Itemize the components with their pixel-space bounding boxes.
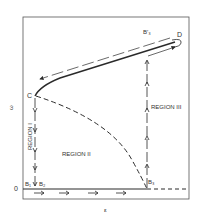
region2-label: REGION II [62,151,91,157]
x-axis-label: ε [104,207,107,213]
y-axis-label: ω [8,105,14,110]
region3-arrows [145,58,149,188]
point-B3prime-label: B′₃ [143,29,151,35]
bifurcation-diagram: C D B′₃ B₁ B₂ B₃ REGION I REGION II REGI… [0,0,200,216]
region3-label: REGION III [151,104,182,110]
region1-arrows [33,98,37,186]
point-B2-label: B₂ [39,181,46,187]
point-B3-label: B₃ [148,179,155,185]
upper-branch [35,42,175,96]
upper-arrows [40,38,175,79]
region1-label: REGION I [27,123,33,150]
zero-line-arrows [34,191,126,195]
origin-label: 0 [14,185,18,192]
point-C-label: C [27,92,32,99]
point-B1-label: B₁ [25,181,31,187]
point-D-label: D [177,31,182,38]
unstable-branch [36,96,147,189]
